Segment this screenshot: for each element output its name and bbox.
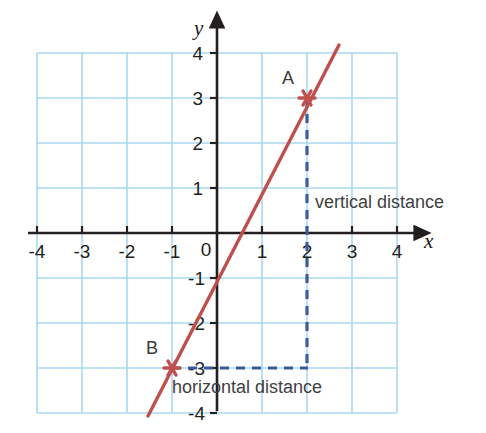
x-tick-label-1: 1: [257, 241, 268, 262]
origin-label: 0: [201, 239, 212, 260]
horizontal-distance-label: horizontal distance: [172, 377, 322, 397]
y-tick-label-m4: -4: [188, 403, 205, 424]
x-tick-label-m2: -2: [119, 241, 136, 262]
y-tick-label-1: 1: [192, 178, 203, 199]
x-tick-label-3: 3: [347, 241, 358, 262]
x-tick-label-4: 4: [392, 241, 403, 262]
point-a-label: A: [282, 68, 294, 88]
x-axis-label: x: [423, 229, 434, 253]
x-tick-label-m3: -3: [74, 241, 91, 262]
x-tick-label-m4: -4: [29, 241, 46, 262]
vertical-distance-label: vertical distance: [315, 192, 444, 212]
y-tick-label-2: 2: [192, 133, 203, 154]
y-tick-label-3: 3: [192, 88, 203, 109]
point-b-label: B: [146, 338, 158, 358]
y-axis-label: y: [192, 16, 204, 40]
y-tick-label-4: 4: [192, 43, 203, 64]
y-tick-label-m1: -1: [188, 268, 205, 289]
x-tick-label-m1: -1: [164, 241, 181, 262]
coordinate-plane-figure: -4 -3 -2 -1 1 2 3 4 0 4 3 2 1 -1 -2 -3 -…: [0, 0, 486, 433]
